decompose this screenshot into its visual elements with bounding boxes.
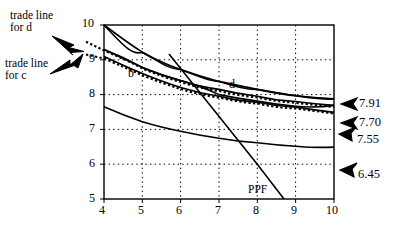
- endpoint-value-791: 7.91: [359, 97, 381, 110]
- x-tick-label-5: 5: [138, 204, 144, 217]
- arrow-value-755: [339, 127, 356, 141]
- curve-ppf: [169, 54, 284, 199]
- endpoint-value-770: 7.70: [359, 116, 381, 129]
- arrow-trade-line-c: [50, 54, 83, 74]
- annotation-trade-line-for-d: trade line for d: [10, 9, 53, 33]
- point-label-d: d: [229, 78, 235, 91]
- endpoint-value-755: 7.55: [357, 133, 379, 146]
- arrow-value-791: [341, 98, 357, 110]
- point-label-b: b: [128, 67, 134, 80]
- arrow-trade-line-d: [52, 36, 84, 55]
- trade-line-for-d: [86, 42, 334, 107]
- economics-indifference-curve-chart: [0, 0, 395, 236]
- y-tick-label-9: 9: [89, 52, 95, 65]
- arrow-value-645: [340, 163, 357, 177]
- x-tick-label-6: 6: [176, 204, 182, 217]
- trade-lines: [86, 42, 334, 114]
- y-tick-label-5: 5: [89, 192, 95, 205]
- x-tick-label-7: 7: [215, 204, 221, 217]
- x-tick-label-9: 9: [291, 204, 297, 217]
- annotation-trade-line-for-c: trade line for c: [5, 57, 48, 81]
- x-tick-label-10: 10: [326, 204, 338, 217]
- endpoint-value-645: 6.45: [358, 168, 380, 181]
- y-tick-label-6: 6: [89, 157, 95, 170]
- x-tick-label-8: 8: [253, 204, 259, 217]
- y-tick-label-7: 7: [89, 122, 95, 135]
- y-tick-label-10: 10: [82, 17, 94, 30]
- y-tick-label-8: 8: [89, 87, 95, 100]
- x-tick-label-4: 4: [99, 204, 105, 217]
- plot-gridlines: [104, 25, 334, 199]
- annotation-ppf: PPF: [248, 183, 267, 195]
